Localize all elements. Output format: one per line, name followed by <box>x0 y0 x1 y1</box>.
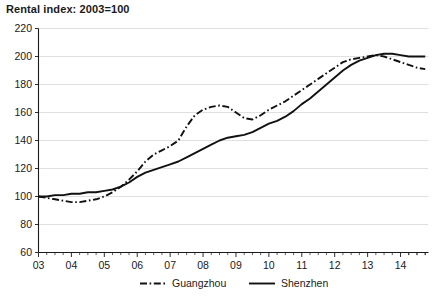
y-tick-label: 80 <box>20 218 32 230</box>
x-tick-label: 04 <box>66 259 78 271</box>
y-tick-label: 220 <box>14 22 32 34</box>
x-tick-label: 14 <box>395 259 407 271</box>
x-tick-label: 13 <box>362 259 374 271</box>
x-axis-labels: 030405060708091011121314 <box>33 259 407 271</box>
x-tick-label: 05 <box>98 259 110 271</box>
x-tick-label: 12 <box>329 259 341 271</box>
x-tick-label: 08 <box>197 259 209 271</box>
y-tick-label: 160 <box>14 106 32 118</box>
y-axis-labels: 6080100120140160180200220 <box>14 22 32 258</box>
x-tick-label: 07 <box>164 259 176 271</box>
rental-index-chart: Rental index: 2003=100 60801001201401601… <box>0 0 437 304</box>
x-tick-label: 10 <box>263 259 275 271</box>
y-tick-label: 120 <box>14 162 32 174</box>
legend-label-guangzhou: Guangzhou <box>172 277 226 289</box>
chart-plot-area: 6080100120140160180200220 03040506070809… <box>0 0 437 304</box>
x-tick-label: 03 <box>33 259 45 271</box>
y-tick-label: 200 <box>14 50 32 62</box>
series-line-shenzhen <box>39 54 426 197</box>
legend-label-shenzhen: Shenzhen <box>281 277 328 289</box>
x-tick-label: 11 <box>296 259 307 271</box>
x-tick-label: 09 <box>230 259 242 271</box>
x-tick-label: 06 <box>131 259 143 271</box>
y-tick-label: 100 <box>14 190 32 202</box>
data-series <box>39 54 426 202</box>
series-line-guangzhou <box>39 55 426 202</box>
y-tick-label: 180 <box>14 78 32 90</box>
y-tick-label: 60 <box>20 246 32 258</box>
chart-legend: GuangzhouShenzhen <box>140 277 328 289</box>
y-tick-label: 140 <box>14 134 32 146</box>
